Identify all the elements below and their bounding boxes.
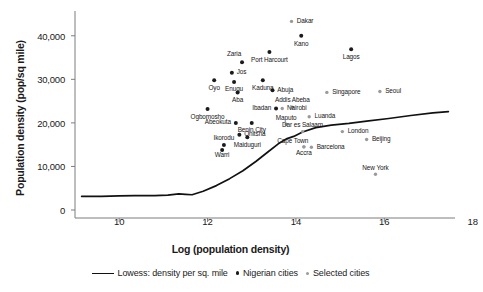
data-point-marker	[378, 90, 381, 93]
data-point-marker	[341, 130, 344, 133]
data-point-label: Kano	[241, 41, 361, 47]
data-point-label: Ibadan	[151, 105, 271, 111]
data-point-marker	[349, 47, 353, 51]
data-point-marker	[261, 78, 265, 82]
legend-item-nigerian-cities: Nigerian cities	[236, 268, 298, 278]
data-point-label: Jos	[237, 69, 247, 75]
legend-item-selected-cities: Selected cities	[306, 268, 370, 278]
data-point-marker	[212, 78, 216, 82]
data-point-marker	[281, 107, 284, 110]
legend-dot-light-swatch	[306, 272, 309, 275]
data-point-label: Barcelona	[317, 144, 345, 150]
data-point-marker	[299, 34, 303, 38]
data-point-marker	[230, 71, 234, 75]
legend-item-label: Nigerian cities	[243, 268, 298, 278]
data-point-label: Dakar	[297, 18, 314, 24]
data-point-marker	[374, 173, 377, 176]
data-point-label: Beijing	[372, 136, 391, 142]
data-point-label: Singapore	[332, 89, 360, 95]
data-point-label: London	[348, 128, 369, 134]
data-point-marker	[234, 121, 238, 125]
data-point-label: Lagos	[291, 54, 411, 60]
legend-line-swatch	[92, 273, 114, 274]
legend-item-label: Lowess: density per sq. mile	[118, 268, 228, 278]
data-point-label: Abeokuta	[111, 119, 231, 125]
chart-legend: Lowess: density per sq. mileNigerian cit…	[0, 268, 461, 278]
data-point-label: Accra	[244, 150, 364, 156]
legend-item-lowess-line: Lowess: density per sq. mile	[92, 268, 228, 278]
data-point-label: Dar es Salaam	[243, 122, 363, 128]
data-point-marker	[290, 20, 293, 23]
data-point-label: Seoul	[385, 88, 401, 94]
data-point-marker	[232, 80, 236, 84]
data-point-label: Nairobi	[287, 105, 307, 111]
data-point-label: Addis Abeba	[232, 97, 352, 103]
data-point-label: Kaduna	[203, 85, 323, 91]
data-point-marker	[365, 138, 368, 141]
legend-dot-swatch	[236, 271, 239, 274]
data-point-label: New York	[315, 165, 435, 171]
data-point-marker	[274, 107, 278, 111]
data-point-marker	[325, 91, 328, 94]
data-point-label: Abuja	[277, 87, 293, 93]
legend-item-label: Selected cities	[313, 268, 370, 278]
